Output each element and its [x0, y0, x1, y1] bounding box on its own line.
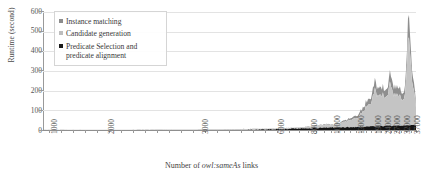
- x-axis-title: Number of owl:sameAs links: [0, 161, 423, 170]
- x-tick-37000: 37000: [414, 115, 422, 134]
- x-tick-2000: 2000: [108, 119, 116, 134]
- x-tick-13000: 13000: [358, 115, 366, 134]
- legend-item-instance-matching: Instance matching: [59, 17, 162, 26]
- legend-item-predicate-selection: Predicate Selection and predicate alignm…: [59, 42, 162, 61]
- x-tick-3000: 3000: [202, 119, 210, 134]
- x-tick-8000: 8000: [311, 119, 319, 134]
- legend-label-candidate-generation: Candidate generation: [66, 29, 131, 38]
- legend-swatch-candidate-generation: [59, 31, 63, 35]
- legend-swatch-instance-matching: [59, 19, 63, 23]
- x-axis-title-suffix: links: [241, 161, 259, 170]
- x-tick-1000: 1000: [51, 119, 59, 134]
- runtime-area-chart: Runtime (second) 600 500 400 300 200 100…: [0, 0, 423, 180]
- x-axis-title-prefix: Number of: [165, 161, 202, 170]
- legend-swatch-predicate-selection: [59, 44, 63, 48]
- x-tick-10000: 10000: [334, 115, 342, 134]
- x-tick-24000: 24000: [385, 115, 393, 134]
- x-axis-title-italic: owl:sameAs: [202, 161, 241, 170]
- legend-label-predicate-selection: Predicate Selection and predicate alignm…: [66, 42, 162, 61]
- x-tick-19000: 19000: [375, 115, 383, 134]
- x-tick-27000: 27000: [394, 115, 402, 134]
- legend-item-candidate-generation: Candidate generation: [59, 29, 162, 38]
- legend-label-instance-matching: Instance matching: [66, 17, 121, 26]
- x-tick-6000: 6000: [278, 119, 286, 134]
- chart-legend: Instance matching Candidate generation P…: [54, 11, 167, 66]
- x-tick-32000: 32000: [404, 115, 412, 134]
